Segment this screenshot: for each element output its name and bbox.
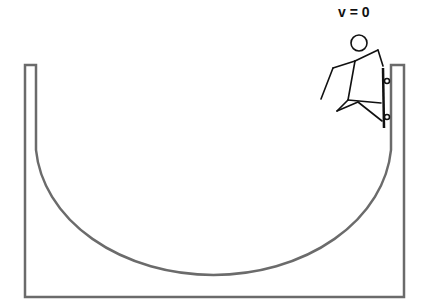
wheel-top — [385, 79, 390, 84]
skateboarder-figure — [321, 35, 383, 121]
wheel-bottom — [385, 115, 390, 120]
head — [351, 35, 367, 51]
half-pipe-diagram — [0, 0, 428, 307]
skateboard — [383, 68, 390, 128]
